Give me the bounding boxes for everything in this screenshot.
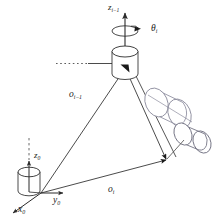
label-x-0: x0: [18, 205, 25, 216]
joint-assembly: [56, 13, 141, 80]
label-theta-i: θi: [151, 24, 157, 35]
link-cylinder-lower: [171, 120, 215, 156]
label-z-i-minus-1: zi−1: [108, 3, 119, 13]
label-y-0: y0: [53, 196, 60, 207]
label-o-i-minus-1: oi−1: [69, 90, 82, 101]
label-o-i: oi: [108, 185, 114, 196]
link-cylinder-upper: [140, 84, 195, 131]
kinematics-diagram: zi−1 θi oi−1 z0 y0 x0 oi: [0, 0, 221, 219]
joint-cylinder-top: [112, 46, 138, 57]
link-cylinders: [140, 84, 214, 159]
label-z-0: z0: [34, 151, 40, 161]
